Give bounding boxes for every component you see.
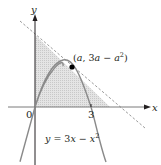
tangent-point — [69, 64, 74, 69]
curve-equation-label: y = 3x − x2 — [44, 132, 99, 144]
tick-label-3: 3 — [88, 109, 94, 120]
diagram-canvas: y x 0 3 (a, 3a − a2) y = 3x − x2 — [0, 0, 161, 165]
x-axis-label: x — [152, 102, 158, 113]
x-axis-arrow-icon — [144, 105, 151, 110]
shaded-region — [35, 35, 110, 107]
y-axis-arrow-icon — [33, 14, 38, 21]
origin-label: 0 — [26, 109, 32, 120]
point-label: (a, 3a − a2) — [73, 51, 128, 63]
y-axis-label: y — [30, 4, 37, 15]
